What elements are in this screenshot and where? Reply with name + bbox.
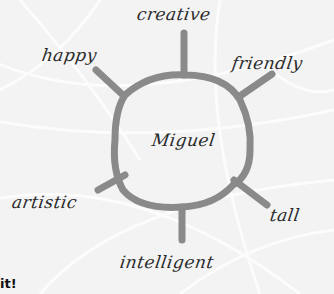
spoke-label-artistic: artistic bbox=[11, 192, 79, 212]
spoke-happy bbox=[96, 70, 124, 96]
spoke-friendly bbox=[240, 74, 272, 96]
center-label: Miguel bbox=[151, 130, 217, 150]
spoke-label-intelligent: intelligent bbox=[119, 252, 216, 272]
spoke-label-happy: happy bbox=[41, 45, 99, 65]
spoke-label-tall: tall bbox=[269, 205, 302, 225]
spoke-label-friendly: friendly bbox=[231, 53, 305, 73]
spoke-tall bbox=[234, 180, 267, 205]
footer-text: it! bbox=[0, 276, 17, 291]
spoke-label-creative: creative bbox=[136, 4, 213, 24]
